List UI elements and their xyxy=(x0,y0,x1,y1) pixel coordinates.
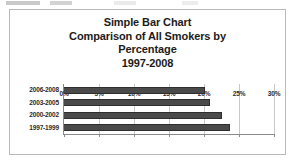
bar-row: 2003-2005 xyxy=(64,97,274,110)
x-axis-tick-mark xyxy=(239,134,240,137)
chart-title: Simple Bar Chart Comparison of All Smoke… xyxy=(10,16,285,70)
plot-area: 0%5%10%15%20%25%30%2006-20082003-2005200… xyxy=(63,84,274,135)
scan-artifact-strip xyxy=(6,1,291,5)
category-label: 2000-2002 xyxy=(29,109,59,122)
x-axis-tick-mark xyxy=(134,134,135,137)
x-axis-tick-mark xyxy=(99,134,100,137)
chart-title-line-2: Comparison of All Smokers by xyxy=(10,30,285,44)
chart-title-line-3: Percentage xyxy=(10,43,285,57)
category-label: 2003-2005 xyxy=(29,97,59,110)
chart-title-line-4: 1997-2008 xyxy=(10,57,285,71)
bar xyxy=(64,124,230,131)
bar-row: 1997-1999 xyxy=(64,122,274,135)
x-axis-tick-mark xyxy=(169,134,170,137)
category-label: 2006-2008 xyxy=(29,84,59,97)
bar-row: 2006-2008 xyxy=(64,84,274,97)
bar xyxy=(64,112,222,119)
x-axis-tick-mark xyxy=(64,134,65,137)
x-axis-tick-mark xyxy=(204,134,205,137)
chart-title-line-1: Simple Bar Chart xyxy=(10,16,285,30)
bar-row: 2000-2002 xyxy=(64,109,274,122)
chart-frame: Simple Bar Chart Comparison of All Smoke… xyxy=(9,9,286,155)
bar xyxy=(64,99,210,106)
bar xyxy=(64,87,205,94)
x-axis-tick-mark xyxy=(274,134,275,137)
category-label: 1997-1999 xyxy=(29,122,59,135)
